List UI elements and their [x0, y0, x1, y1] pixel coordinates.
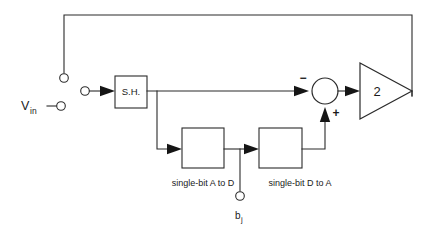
a-to-d-block — [182, 128, 224, 168]
sum-plus-arrowhead — [320, 107, 330, 122]
summing-junction — [312, 78, 338, 104]
gain-label: 2 — [373, 84, 380, 99]
sample-hold-label: S.H. — [122, 86, 140, 97]
vin-label: V — [21, 99, 30, 113]
gain-amplifier-triangle — [360, 63, 412, 119]
dac-to-sum-wire — [302, 118, 325, 149]
vin-label-subscript: in — [30, 106, 37, 116]
sh-branch-to-adc-wire — [157, 91, 171, 149]
block-diagram: S.H. 2 − + single-bit A to D single-bit … — [0, 0, 440, 229]
dac-input-arrowhead — [244, 144, 259, 154]
d-to-a-caption: single-bit D to A — [268, 178, 331, 188]
a-to-d-caption: single-bit A to D — [172, 178, 235, 188]
diagram-canvas: S.H. 2 − + single-bit A to D single-bit … — [0, 0, 440, 229]
bit-output-label-subscript: j — [240, 215, 243, 224]
d-to-a-block — [259, 128, 302, 168]
amp-input-arrowhead — [345, 86, 360, 96]
sum-minus-arrowhead — [294, 86, 309, 96]
adc-input-arrowhead — [167, 144, 182, 154]
sh-input-terminal-circle — [81, 87, 90, 96]
vin-terminal-circle — [57, 102, 66, 111]
feedback-terminal-circle — [60, 74, 69, 83]
bit-output-terminal-circle — [236, 192, 245, 201]
sh-input-arrowhead — [100, 86, 115, 96]
sum-minus-sign: − — [299, 71, 306, 85]
sum-plus-sign: + — [332, 106, 339, 120]
